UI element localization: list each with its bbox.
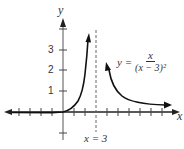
y-tick-label-3: 3 [48,45,54,55]
y-axis-label: y [58,5,63,15]
equation-denominator: (x − 3)² [135,62,166,73]
equation-numerator: x [146,50,155,62]
curve-right-end-arrow-icon [164,102,172,109]
y-tick-label-1: 1 [48,86,54,96]
graph-canvas [0,0,184,149]
y-tick-label-2: 2 [48,65,54,75]
curve-right-arrow-icon [105,62,111,71]
asymptote-label: x = 3 [84,133,107,143]
y-axis-arrow-icon [60,18,66,27]
curve-right-branch [109,70,165,105]
equation-label: y = x (x − 3)² [117,50,166,73]
x-axis-left-arrow-icon [4,109,12,115]
x-axis-label: x [177,111,182,121]
curve-left-arrow-icon [86,33,92,43]
equation-lhs: y = [117,56,132,68]
